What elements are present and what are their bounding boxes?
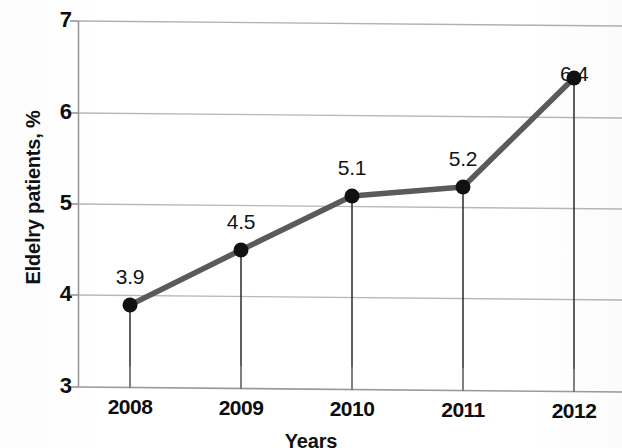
- x-axis-title: Years: [0, 430, 622, 448]
- data-label-2012: 6.4: [560, 63, 620, 84]
- y-axis-title: Eldelry patients, %: [22, 48, 45, 348]
- gridline-5: [78, 204, 622, 209]
- data-label-2009: 4.5: [211, 211, 271, 232]
- gridline-7: [78, 21, 622, 26]
- x-tick-label-2010: 2010: [307, 398, 397, 419]
- drop-lines: [130, 78, 574, 392]
- gridline-4: [78, 295, 622, 300]
- x-tick-label-2008: 2008: [85, 396, 175, 417]
- line-chart: 7 6 5 4 3 2008 2009 2010 2011 2012 3.9 4…: [0, 0, 622, 448]
- data-point-2009[interactable]: [234, 243, 249, 258]
- x-axis-line: [78, 387, 622, 392]
- data-label-2010: 5.1: [322, 157, 382, 178]
- data-label-2011: 5.2: [433, 148, 493, 169]
- data-point-2008[interactable]: [123, 298, 138, 313]
- y-tick-label-3: 3: [38, 375, 72, 397]
- x-tick-label-2011: 2011: [418, 399, 508, 420]
- data-point-2010[interactable]: [345, 189, 360, 204]
- data-point-2011[interactable]: [456, 180, 471, 195]
- chart-plot-area: [0, 0, 622, 448]
- data-label-2008: 3.9: [100, 266, 160, 287]
- x-tick-label-2012: 2012: [529, 400, 619, 421]
- y-tick-label-7: 7: [38, 9, 72, 31]
- x-tick-label-2009: 2009: [196, 397, 286, 418]
